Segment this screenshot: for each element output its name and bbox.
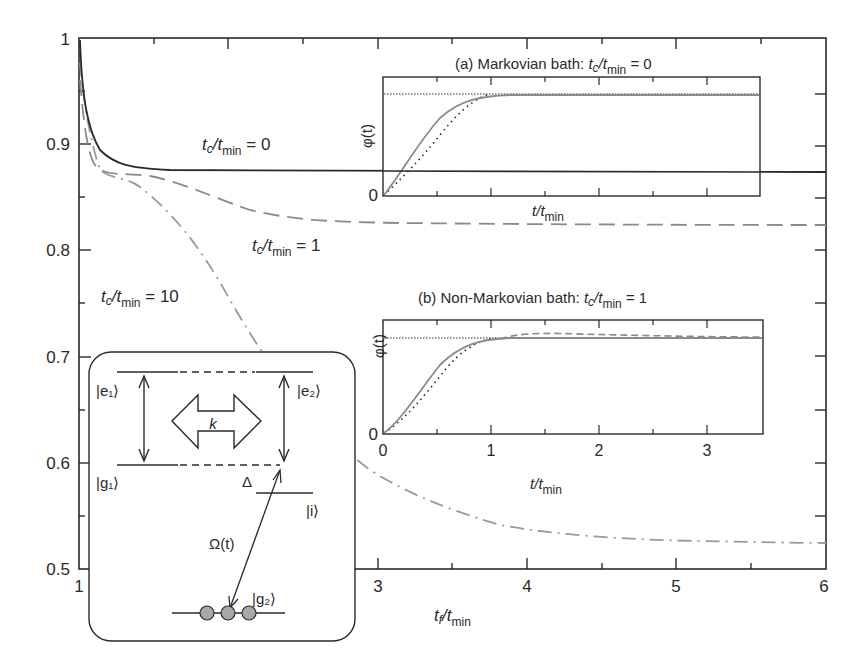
x-tick-label: 0 <box>379 442 388 459</box>
inset-b-y-label: φ(t) <box>370 334 387 358</box>
y-tick-label: 1 <box>61 30 70 49</box>
inset-b-y-zero: 0 <box>369 425 378 444</box>
x-tick-label: 4 <box>522 577 531 596</box>
annotation-tc-10: tc/tmin = 10 <box>101 287 179 310</box>
annotation-tc-1: tc/tmin = 1 <box>252 236 320 259</box>
x-tick-label: 6 <box>819 577 828 596</box>
x-tick-label: 1 <box>487 442 496 459</box>
main-curve-overlap <box>383 171 760 172</box>
inset-a-title: (a) Markovian bath: tc/tmin = 0 <box>455 55 652 77</box>
label-e2: |e₂⟩ <box>297 382 321 399</box>
y-tick-label: 0.7 <box>46 348 70 367</box>
annotation-tc-0: tc/tmin = 0 <box>202 135 270 158</box>
label-g2: |g₂⟩ <box>252 590 276 607</box>
inset-b-x-tick-labels: 0 1 2 3 <box>379 442 712 459</box>
label-detuning: Δ <box>242 473 252 490</box>
atom-icon <box>221 606 235 620</box>
x-tick-label: 3 <box>373 577 382 596</box>
label-i: |i⟩ <box>306 502 319 519</box>
main-y-tick-labels: 1 0.9 0.8 0.7 0.6 0.5 <box>46 30 70 579</box>
inset-a: (a) Markovian bath: tc/tmin = 0 0 φ(t) t… <box>358 55 760 224</box>
inset-b-title: (b) Non-Markovian bath: tc/tmin = 1 <box>418 289 647 311</box>
x-tick-label: 5 <box>671 577 680 596</box>
x-tick-label: 1 <box>74 577 83 596</box>
y-tick-label: 0.8 <box>46 241 70 260</box>
x-tick-label: 2 <box>595 442 604 459</box>
inset-a-x-label: t/tmin <box>532 202 564 224</box>
inset-b: (b) Non-Markovian bath: tc/tmin = 1 0 0 … <box>369 289 763 497</box>
main-x-axis-label: tf/tmin <box>434 606 471 629</box>
inset-a-y-zero: 0 <box>369 186 378 205</box>
y-tick-label: 0.6 <box>46 454 70 473</box>
y-tick-label: 0.9 <box>46 135 70 154</box>
label-drive: Ω(t) <box>209 535 234 552</box>
level-schematic: k |e₁⟩ |e₂⟩ |g₁⟩ |i⟩ |g₂⟩ Δ Ω(t) <box>89 352 355 641</box>
inset-a-y-label: φ(t) <box>358 124 375 148</box>
atom-icon <box>242 606 256 620</box>
x-tick-label: 3 <box>703 442 712 459</box>
atoms <box>200 606 256 620</box>
y-tick-label: 0.5 <box>46 560 70 579</box>
figure: 1 0.9 0.8 0.7 0.6 0.5 1 3 4 5 6 tf/tmin … <box>0 0 861 671</box>
label-e1: |e₁⟩ <box>96 382 119 399</box>
inset-b-x-label: t/tmin <box>530 475 562 497</box>
label-g1: |g₁⟩ <box>96 474 119 491</box>
atom-icon <box>200 606 214 620</box>
